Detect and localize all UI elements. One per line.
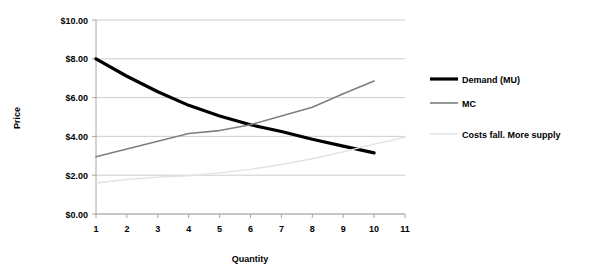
x-tick-label: 3 xyxy=(155,224,160,234)
x-tick-label: 4 xyxy=(186,224,191,234)
legend-label: Demand (MU) xyxy=(462,75,520,85)
x-tick-label: 2 xyxy=(124,224,129,234)
x-tick-label: 9 xyxy=(341,224,346,234)
price-quantity-line-chart: $0.00$2.00$4.00$6.00$8.00$10.00 12345678… xyxy=(0,0,590,278)
x-tick-label: 1 xyxy=(93,224,98,234)
legend-label: MC xyxy=(462,99,476,109)
y-tick-label: $0.00 xyxy=(65,210,88,220)
y-tick-label: $6.00 xyxy=(65,93,88,103)
x-tick-label: 10 xyxy=(369,224,379,234)
x-tick-label: 7 xyxy=(279,224,284,234)
y-axis-title: Price xyxy=(12,107,22,129)
x-tick-label: 6 xyxy=(248,224,253,234)
y-tick-label: $4.00 xyxy=(65,132,88,142)
legend-label: Costs fall. More supply xyxy=(462,130,561,140)
y-tick-label: $10.00 xyxy=(60,16,88,26)
x-axis-title: Quantity xyxy=(232,254,269,264)
y-tick-label: $8.00 xyxy=(65,54,88,64)
x-tick-label: 5 xyxy=(217,224,222,234)
x-tick-label: 8 xyxy=(310,224,315,234)
chart-container: $0.00$2.00$4.00$6.00$8.00$10.00 12345678… xyxy=(0,0,590,278)
y-tick-label: $2.00 xyxy=(65,171,88,181)
x-tick-label: 11 xyxy=(400,224,410,234)
